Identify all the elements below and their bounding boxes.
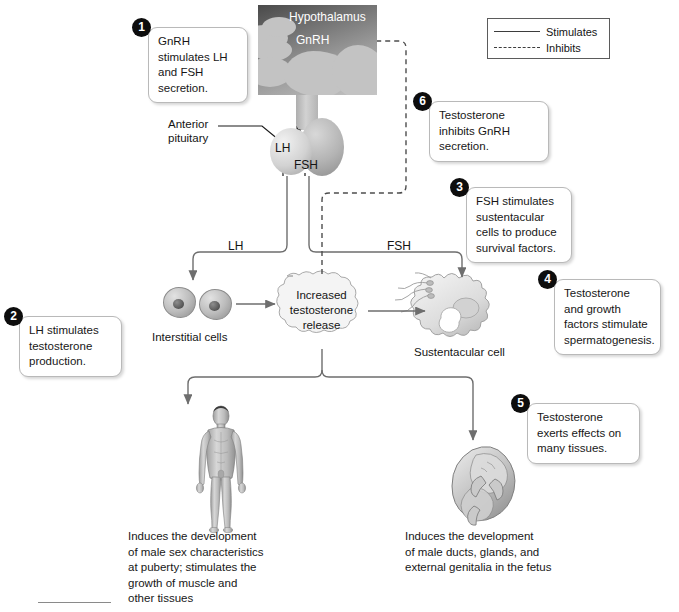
callout-1-badge: 1 xyxy=(132,18,151,37)
testosterone-release-node: Increased testosterone release xyxy=(277,275,366,347)
male-caption-line: other tissues xyxy=(128,591,308,607)
callout-6-badge: 6 xyxy=(413,92,432,111)
fetus-caption-line: Induces the development xyxy=(405,529,595,545)
sustentacular-cell-label: Sustentacular cell xyxy=(414,345,505,359)
interstitial-cell xyxy=(163,287,196,318)
callout-2: LH stimulates testosterone production. xyxy=(19,316,122,377)
callout-2-text: LH stimulates testosterone production. xyxy=(29,324,99,367)
lh-arrow-label: LH xyxy=(228,239,243,253)
callout-1-text: GnRH stimulates LH and FSH secretion. xyxy=(158,35,228,94)
legend: Stimulates Inhibits xyxy=(487,18,610,59)
fetus-caption-line: external genitalia in the fetus xyxy=(405,560,595,576)
callout-1: GnRH stimulates LH and FSH secretion. xyxy=(148,27,248,103)
callout-5-badge: 5 xyxy=(511,394,530,413)
legend-label-inhibits: Inhibits xyxy=(546,41,581,55)
hypothalamus-label: Hypothalamus xyxy=(289,10,366,24)
callout-5-text: Testosterone exerts effects on many tiss… xyxy=(537,411,621,454)
male-caption-line: of male sex characteristics xyxy=(128,545,308,561)
figure-canvas: Hypothalamus GnRH Anterior pituitary LH … xyxy=(0,0,679,612)
lh-pituitary-label: LH xyxy=(275,141,290,155)
fetus-illustration xyxy=(452,447,515,526)
fetus-caption-line: of male ducts, glands, and xyxy=(405,545,595,561)
legend-item-stimulates: Stimulates xyxy=(494,25,606,39)
male-caption-line: Induces the development xyxy=(128,529,308,545)
anterior-pituitary-label-line2: pituitary xyxy=(168,131,208,145)
callout-6-text: Testosterone inhibits GnRH secretion. xyxy=(439,109,510,152)
callout-4-badge: 4 xyxy=(538,270,557,289)
callout-3: FSH stimulates sustentacular cells to pr… xyxy=(466,187,572,263)
cloud-line-1: Increased xyxy=(277,288,366,303)
interstitial-cell xyxy=(199,289,232,320)
solid-line-icon xyxy=(494,31,540,32)
legend-label-stimulates: Stimulates xyxy=(546,25,597,39)
brain-fold xyxy=(332,45,377,95)
cloud-line-2: testosterone xyxy=(277,303,366,318)
callout-4-text: Testosterone and growth factors stimulat… xyxy=(564,287,655,346)
legend-item-inhibits: Inhibits xyxy=(494,41,606,55)
callout-6: Testosterone inhibits GnRH secretion. xyxy=(429,101,549,162)
male-caption-line: growth of muscle and xyxy=(128,576,308,592)
callout-4: Testosterone and growth factors stimulat… xyxy=(554,279,661,355)
male-caption: Induces the development of male sex char… xyxy=(128,529,308,607)
fsh-arrow-label: FSH xyxy=(387,239,411,253)
testosterone-release-text: Increased testosterone release xyxy=(277,288,366,333)
fetus-caption: Induces the development of male ducts, g… xyxy=(405,529,595,576)
spermatid-heads xyxy=(426,281,435,299)
anterior-pituitary-label-line1: Anterior xyxy=(168,117,208,131)
callout-2-badge: 2 xyxy=(4,307,23,326)
callout-5: Testosterone exerts effects on many tiss… xyxy=(527,403,640,464)
male-body-illustration xyxy=(196,406,245,533)
spermatid-tails xyxy=(395,273,431,312)
callout-3-text: FSH stimulates sustentacular cells to pr… xyxy=(476,195,557,254)
male-caption-line: at puberty; stimulates the xyxy=(128,560,308,576)
dashed-line-icon xyxy=(494,47,540,48)
sustentacular-cell-shape xyxy=(395,273,489,337)
gnrh-label: GnRH xyxy=(296,33,329,47)
cell-nucleus xyxy=(209,301,220,311)
cell-nucleus xyxy=(173,299,184,309)
callout-3-badge: 3 xyxy=(450,178,469,197)
cloud-line-3: release xyxy=(277,318,366,333)
fsh-pituitary-label: FSH xyxy=(294,158,318,172)
footer-rule xyxy=(38,602,111,603)
interstitial-cells-label: Interstitial cells xyxy=(152,330,227,344)
